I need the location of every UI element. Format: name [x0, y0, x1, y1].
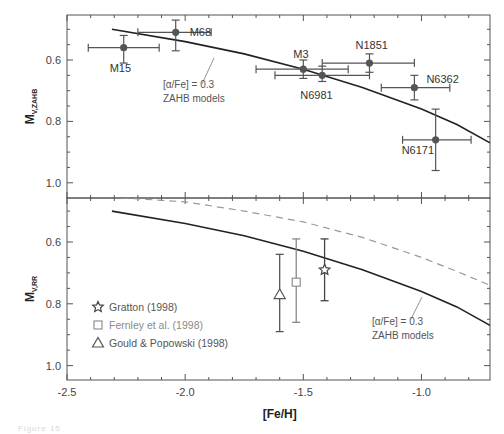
filled-circle-marker [300, 66, 307, 73]
y-axis-label: MV,ZAHB [23, 89, 39, 124]
annotation-text: ZAHB models [163, 93, 225, 104]
filled-circle-marker [319, 72, 326, 79]
legend-item: Fernley et al. (1998) [94, 319, 203, 331]
dashed-model-curve [121, 198, 490, 285]
point-label: M68 [190, 26, 211, 38]
data-point: M15 [88, 35, 159, 73]
filled-circle-marker [120, 44, 127, 51]
data-point [292, 239, 300, 322]
legend-label: Fernley et al. (1998) [109, 319, 203, 331]
filled-circle-marker [432, 136, 439, 143]
point-label: N6362 [426, 73, 458, 85]
legend-label: Gould & Popowski (1998) [109, 337, 228, 349]
data-point: N6171 [402, 109, 471, 170]
y-tick-label: 0.8 [46, 115, 61, 127]
point-label: M15 [110, 62, 131, 74]
square-marker [292, 278, 300, 286]
star-marker [93, 301, 104, 311]
data-point: N6981 [275, 66, 370, 101]
annotation-text: [α/Fe] = 0.3 [163, 79, 215, 90]
triangle-marker [93, 338, 104, 348]
figure-caption: Figure 15 [18, 424, 61, 433]
point-label: N6981 [300, 89, 332, 101]
x-tick-label: -1.5 [294, 386, 313, 398]
annotation-text: [α/Fe] = 0.3 [372, 316, 424, 327]
point-label: N6171 [402, 144, 434, 156]
y-tick-label: 0.8 [46, 298, 61, 310]
plot-frame [67, 15, 490, 198]
filled-circle-marker [411, 84, 418, 91]
legend-label: Gratton (1998) [109, 301, 177, 313]
data-point: N6362 [381, 73, 459, 100]
y-tick-label: 0.6 [46, 54, 61, 66]
legend: Gratton (1998)Fernley et al. (1998)Gould… [93, 301, 229, 349]
legend-item: Gould & Popowski (1998) [93, 337, 229, 349]
filled-circle-marker [172, 29, 179, 36]
plot-frame [67, 198, 490, 380]
top-panel: 0.60.81.0MV,ZAHB[α/Fe] = 0.3ZAHB modelsM… [23, 15, 490, 198]
y-axis-label: MV,RR [23, 276, 39, 302]
data-point [319, 239, 330, 301]
point-label: M3 [293, 48, 308, 60]
point-label: N1851 [355, 39, 387, 51]
x-tick-label: -2.0 [176, 386, 195, 398]
star-marker [319, 264, 330, 274]
filled-circle-marker [366, 59, 373, 66]
y-tick-label: 0.6 [46, 236, 61, 248]
annotation-text: ZAHB models [372, 330, 434, 341]
triangle-marker [274, 289, 285, 299]
x-tick-label: -2.5 [58, 386, 77, 398]
x-axis-label: [Fe/H] [263, 407, 297, 421]
square-marker [94, 321, 102, 329]
data-point: N1851 [322, 39, 414, 72]
bottom-panel: 0.60.81.0MV,RR[α/Fe] = 0.3ZAHB modelsGra… [23, 198, 490, 380]
chart-canvas: 0.60.81.0MV,ZAHB[α/Fe] = 0.3ZAHB modelsM… [0, 0, 504, 434]
data-point [274, 254, 285, 331]
legend-item: Gratton (1998) [93, 301, 178, 313]
y-tick-label: 1.0 [46, 360, 61, 372]
y-tick-label: 1.0 [46, 177, 61, 189]
figure: 0.60.81.0MV,ZAHB[α/Fe] = 0.3ZAHB modelsM… [0, 0, 504, 434]
x-tick-label: -1.0 [412, 386, 431, 398]
